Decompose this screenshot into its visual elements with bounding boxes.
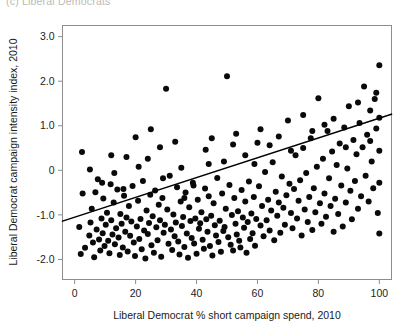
x-tick-label: 80 [313, 287, 325, 299]
data-point [288, 148, 294, 154]
x-tick-label: 100 [371, 287, 389, 299]
data-point [317, 200, 323, 206]
data-point [134, 223, 140, 229]
data-point [376, 62, 382, 68]
data-point [98, 215, 104, 221]
data-point [173, 219, 179, 225]
data-point [133, 134, 139, 140]
y-tick-label: 1.0 [40, 119, 55, 131]
data-point [108, 217, 114, 223]
data-point [321, 191, 327, 197]
x-tick-label: 60 [252, 287, 264, 299]
data-point [237, 244, 243, 250]
data-point [87, 166, 93, 172]
data-point [194, 251, 200, 257]
y-tick-label: 0 [49, 164, 55, 176]
data-point [252, 243, 258, 249]
data-point [219, 191, 225, 197]
data-point [265, 197, 271, 203]
data-point [82, 245, 88, 251]
data-point [112, 241, 118, 247]
data-point [340, 223, 346, 229]
data-point [181, 195, 187, 201]
data-point [239, 187, 245, 193]
data-point [367, 108, 373, 114]
data-point [325, 128, 331, 134]
data-point [190, 182, 196, 188]
data-point [222, 224, 228, 230]
data-point [145, 231, 151, 237]
data-point [214, 175, 220, 181]
data-point [280, 205, 286, 211]
data-point [344, 166, 350, 172]
data-point [99, 180, 105, 186]
data-point [309, 227, 315, 233]
data-point [125, 248, 131, 254]
data-point [136, 236, 142, 242]
data-point [106, 250, 112, 256]
data-point [376, 180, 382, 186]
data-point [96, 236, 102, 242]
data-point [218, 249, 224, 255]
data-point [373, 90, 379, 96]
data-point [350, 137, 356, 143]
data-point [108, 181, 114, 187]
data-point [198, 209, 204, 215]
data-point [361, 84, 367, 90]
data-point [242, 199, 248, 205]
data-point [256, 183, 262, 189]
data-point [347, 188, 353, 194]
data-point [183, 190, 189, 196]
data-point [363, 173, 369, 179]
data-point [175, 239, 181, 245]
data-point [276, 133, 282, 139]
data-point [167, 173, 173, 179]
data-point [209, 252, 215, 258]
data-point [355, 206, 361, 212]
data-point [179, 223, 185, 229]
data-point [231, 195, 237, 201]
data-point [329, 149, 335, 155]
data-point [367, 138, 373, 144]
data-point [355, 100, 361, 106]
data-point [217, 218, 223, 224]
y-axis-title: Liberal Democrat campaign intensity inde… [7, 38, 19, 265]
data-point [226, 182, 232, 188]
data-point [128, 219, 134, 225]
data-point [353, 151, 359, 157]
data-point [337, 141, 343, 147]
data-point [160, 175, 166, 181]
data-point [131, 240, 137, 246]
data-point [94, 227, 100, 233]
data-point [331, 116, 337, 122]
data-point [208, 213, 214, 219]
x-axis-title: Liberal Democrat % short campaign spend,… [113, 309, 341, 321]
data-point [172, 139, 178, 145]
data-point [127, 233, 133, 239]
data-point [283, 192, 289, 198]
data-point [360, 144, 366, 150]
data-point [90, 240, 96, 246]
data-point [142, 256, 148, 262]
data-point [126, 203, 132, 209]
x-tick-label: 40 [191, 287, 203, 299]
data-point [114, 186, 120, 192]
data-point [195, 197, 201, 203]
scatter-plot-figure: (c) Liberal Democrats 3.02.01.00-1.0-2.0… [0, 0, 406, 330]
data-point [168, 227, 174, 233]
data-point [207, 243, 213, 249]
data-point [235, 208, 241, 214]
y-tick-label: -1.0 [36, 209, 54, 221]
data-point [230, 248, 236, 254]
data-point [250, 230, 256, 236]
data-point [158, 254, 164, 260]
data-point [297, 177, 303, 183]
x-tick-label: 20 [130, 287, 142, 299]
data-point [116, 235, 122, 241]
data-point [300, 145, 306, 151]
data-point [170, 211, 176, 217]
data-point [139, 246, 145, 252]
data-point [251, 194, 257, 200]
data-point [343, 199, 349, 205]
data-point [240, 215, 246, 221]
